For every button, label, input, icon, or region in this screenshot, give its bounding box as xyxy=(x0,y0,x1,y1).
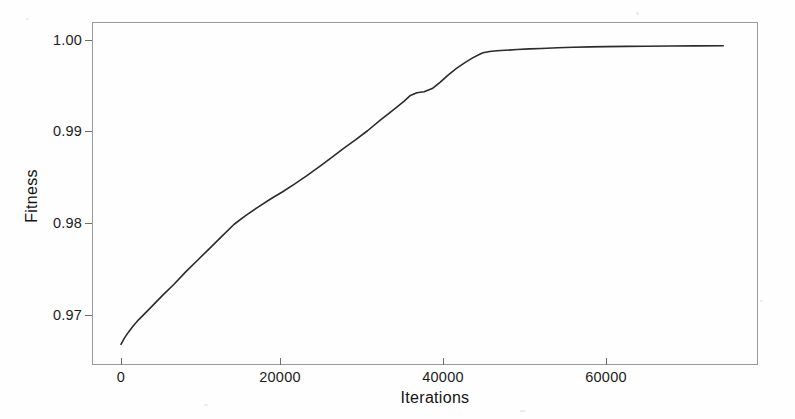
scan-speck xyxy=(636,12,639,15)
scan-speck xyxy=(520,410,525,412)
scan-speck xyxy=(760,300,763,302)
chart-figure: 1.00 0.99 0.98 0.97 0 20000 40000 60000 … xyxy=(0,0,795,419)
y-tick-mark xyxy=(85,40,92,41)
y-tick-label: 0.97 xyxy=(53,308,82,323)
y-tick-label: 0.99 xyxy=(53,124,82,139)
y-tick-label: 0.98 xyxy=(53,216,82,231)
x-axis-label: Iterations xyxy=(401,390,470,406)
y-tick-mark xyxy=(85,131,92,132)
x-tick-label: 0 xyxy=(117,370,125,385)
x-tick-label: 60000 xyxy=(585,370,626,385)
y-axis-ticks: 1.00 0.99 0.98 0.97 xyxy=(0,0,82,419)
y-tick-label: 1.00 xyxy=(53,33,82,48)
y-tick-mark xyxy=(85,223,92,224)
y-tick-mark xyxy=(85,315,92,316)
series-layer xyxy=(92,22,758,365)
x-tick-label: 40000 xyxy=(422,370,463,385)
y-axis-label: Fitness xyxy=(24,169,40,223)
scan-speck xyxy=(204,404,208,406)
series-line-best-fitness xyxy=(121,46,723,345)
x-tick-label: 20000 xyxy=(259,370,300,385)
